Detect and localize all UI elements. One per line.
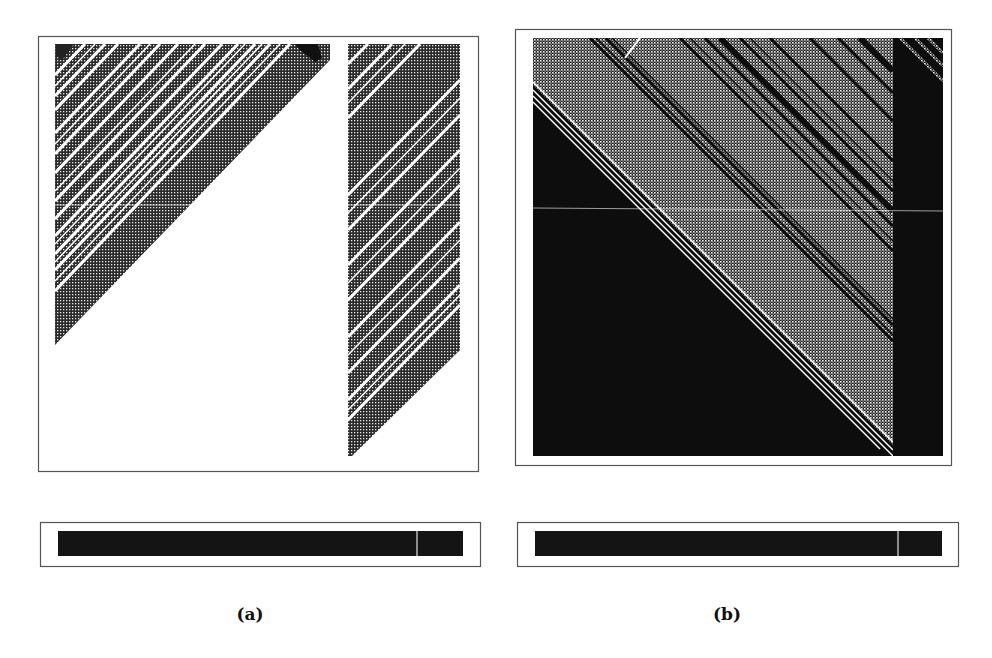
figure-canvas	[0, 0, 992, 658]
panel-a-bar-fill	[58, 531, 463, 556]
panel-a-main-plot	[39, 37, 479, 472]
panel-a-bar	[41, 523, 481, 567]
panel-b-right-column	[893, 38, 943, 456]
panel-b-bar	[518, 523, 959, 567]
panel-b-caption: (b)	[713, 604, 741, 624]
panel-b-main-plot	[516, 30, 952, 466]
panel-a-caption: (a)	[236, 604, 263, 624]
panel-b-bar-fill	[535, 531, 942, 556]
